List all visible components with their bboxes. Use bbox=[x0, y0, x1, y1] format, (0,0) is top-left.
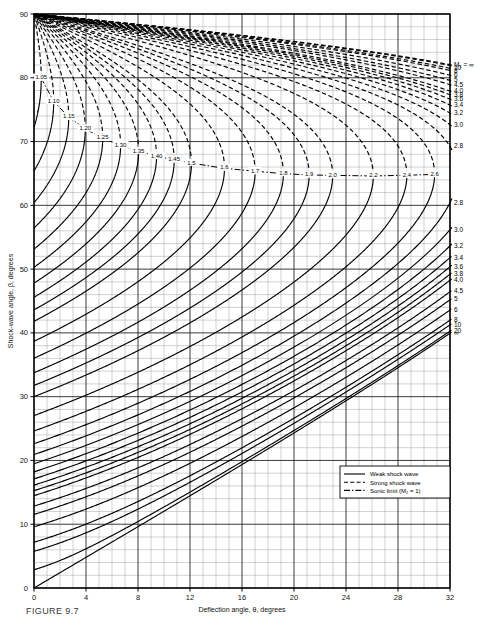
right-axis-mach-label: 3.4 bbox=[454, 101, 463, 108]
mach-curve-label: 1.05 bbox=[35, 74, 47, 80]
x-axis-tick-label: 8 bbox=[136, 593, 140, 602]
right-axis-mach-label: 6 bbox=[454, 306, 458, 313]
right-axis-mach-label: 4.0 bbox=[454, 276, 463, 283]
mach-curve-label: 1.45 bbox=[168, 156, 180, 162]
mach-curve-label: 1.8 bbox=[279, 170, 288, 176]
legend: Weak shock waveStrong shock waveSonic li… bbox=[340, 466, 450, 498]
y-axis-tick-label: 60 bbox=[20, 201, 28, 210]
x-axis-tick-label: 4 bbox=[84, 593, 88, 602]
mach-curve-label: 1.7 bbox=[251, 168, 260, 174]
legend-item-label: Strong shock wave bbox=[370, 480, 421, 486]
y-axis-tick-label: 80 bbox=[20, 73, 28, 82]
y-axis-tick-label: 0 bbox=[24, 584, 28, 593]
right-axis-mach-label: 2.8 bbox=[454, 142, 463, 149]
right-axis-mach-label: 5 bbox=[454, 295, 458, 302]
x-axis-tick-label: 28 bbox=[394, 593, 402, 602]
right-axis-mach-label: 2.8 bbox=[454, 199, 463, 206]
mach-curve-label: 2.6 bbox=[430, 171, 439, 177]
right-axis-mach-label: 4.5 bbox=[454, 287, 463, 294]
y-axis-tick-label: 30 bbox=[20, 392, 28, 401]
x-axis-title: Deflection angle, θ, degrees bbox=[198, 606, 286, 614]
right-axis-mach-label: 3.0 bbox=[454, 121, 463, 128]
mach-curve-label: 1.10 bbox=[48, 98, 60, 104]
mach-curve-label: 1.40 bbox=[151, 153, 163, 159]
figure-caption: FIGURE 9.7 bbox=[26, 606, 79, 616]
y-axis-tick-label: 40 bbox=[20, 328, 28, 337]
right-axis-mach-label: 3.2 bbox=[454, 109, 463, 116]
x-axis-tick-label: 0 bbox=[32, 593, 36, 602]
right-axis-mach-label: 3.6 bbox=[454, 263, 463, 270]
right-axis-mach-label: 3.4 bbox=[454, 254, 463, 261]
right-axis-mach-label: 3.0 bbox=[454, 226, 463, 233]
oblique-shock-chart: 1.051.101.151.201.251.301.351.401.451.51… bbox=[0, 0, 493, 628]
x-axis-tick-label: 32 bbox=[446, 593, 454, 602]
mach-curve-label: 1.5 bbox=[187, 160, 196, 166]
y-axis-title: Shock-wave angle, β, degrees bbox=[7, 253, 15, 348]
x-axis-tick-label: 20 bbox=[290, 593, 298, 602]
mach-curve-label: 1.20 bbox=[79, 125, 91, 131]
mach-curve-label: 1.6 bbox=[220, 164, 229, 170]
mach-curve-label: 2.0 bbox=[328, 172, 337, 178]
legend-item-label: Weak shock wave bbox=[370, 471, 419, 477]
mach-curve-label: 1.35 bbox=[133, 148, 145, 154]
y-axis-tick-label: 70 bbox=[20, 137, 28, 146]
y-axis-tick-label: 50 bbox=[20, 265, 28, 274]
y-axis-tick-label: 10 bbox=[20, 520, 28, 529]
y-axis-tick-label: 90 bbox=[20, 10, 28, 19]
legend-item-label: Sonic limit (M₂ = 1) bbox=[370, 488, 421, 494]
right-axis-mach-label: 3.2 bbox=[454, 242, 463, 249]
right-axis-mach-label: ∞ bbox=[454, 329, 459, 336]
mach-curve-label: 1.9 bbox=[305, 171, 314, 177]
mach-curve-label: 2.2 bbox=[369, 172, 378, 178]
mach-curve-label: 1.30 bbox=[115, 142, 127, 148]
x-axis-tick-label: 16 bbox=[238, 593, 246, 602]
x-axis-tick-label: 24 bbox=[342, 593, 350, 602]
mach-curve-label: 1.25 bbox=[97, 134, 109, 140]
mach-curve-label: 2.4 bbox=[403, 172, 412, 178]
figure-container: 1.051.101.151.201.251.301.351.401.451.51… bbox=[0, 0, 493, 628]
mach-curve-label: 1.15 bbox=[63, 113, 75, 119]
y-axis-tick-label: 20 bbox=[20, 456, 28, 465]
x-axis-tick-label: 12 bbox=[186, 593, 194, 602]
